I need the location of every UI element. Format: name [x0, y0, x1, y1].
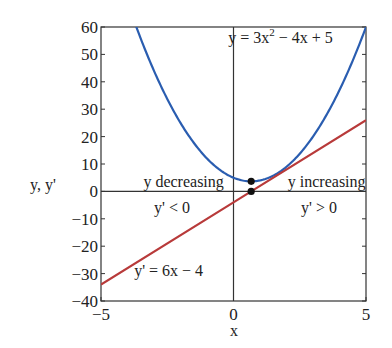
y-tick-label: 20: [81, 128, 98, 147]
annotation-label: y' < 0: [154, 199, 190, 217]
annotation-label: y' > 0: [301, 199, 337, 217]
marked-points: [248, 178, 255, 195]
x-tick-label: 5: [362, 305, 371, 324]
annotation-label: y increasing: [288, 173, 366, 191]
y-axis-label: y, y': [30, 176, 56, 194]
function-derivative-chart: 6050403020100−10−20−30−40−505 y = 3x2 − …: [0, 0, 392, 348]
x-axis-label: x: [230, 322, 238, 339]
annotation-label: y decreasing: [143, 173, 223, 191]
y-tick-label: −20: [71, 237, 98, 256]
y-tick-label: 10: [81, 155, 98, 174]
annotation-label: y' = 6x − 4: [134, 262, 203, 280]
annotation-label: y = 3x2 − 4x + 5: [228, 26, 333, 47]
marked-point: [248, 178, 255, 185]
y-tick-label: −10: [71, 210, 98, 229]
marked-point: [248, 188, 255, 195]
y-tick-label: 60: [81, 18, 98, 37]
y-tick-label: −30: [71, 265, 98, 284]
y-tick-label: 40: [81, 73, 98, 92]
y-tick-label: 0: [90, 182, 99, 201]
y-tick-label: 30: [81, 100, 98, 119]
x-tick-label: −5: [92, 305, 110, 324]
y-tick-label: 50: [81, 45, 98, 64]
